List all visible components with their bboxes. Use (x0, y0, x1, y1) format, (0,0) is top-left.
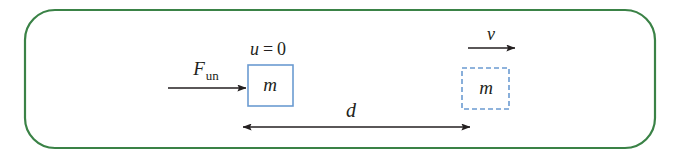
mass-label-final: m (479, 77, 493, 98)
force-label-base: F (192, 58, 205, 79)
distance-label: d (346, 99, 357, 121)
initial-velocity-value: 0 (277, 39, 286, 59)
final-velocity-label: v (487, 24, 495, 44)
initial-velocity-label: u=0 (250, 39, 286, 59)
initial-velocity-variable: u (250, 39, 259, 59)
physics-diagram: Fun u=0 m m v d (0, 0, 676, 159)
force-label-subscript: un (206, 68, 220, 83)
diagram-canvas: Fun u=0 m m v d (0, 0, 676, 159)
mass-label-initial: m (263, 74, 277, 95)
